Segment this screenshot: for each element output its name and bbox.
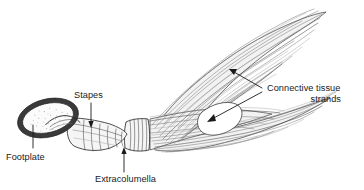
diagram-canvas: Footplate Stapes Extracolumella Connecti… xyxy=(0,0,364,190)
extracolumella-shape xyxy=(124,119,149,151)
label-connective-tissue-line2: strands xyxy=(311,94,342,104)
label-footplate: Footplate xyxy=(6,152,45,162)
stapes-shaft-shape xyxy=(67,118,127,151)
extracolumella-body xyxy=(124,119,149,151)
label-connective-tissue-line1: Connective tissue xyxy=(267,83,340,93)
label-extracolumella: Extracolumella xyxy=(95,174,157,184)
anatomical-figure: Footplate Stapes Extracolumella Connecti… xyxy=(0,0,364,190)
label-stapes: Stapes xyxy=(74,90,103,100)
